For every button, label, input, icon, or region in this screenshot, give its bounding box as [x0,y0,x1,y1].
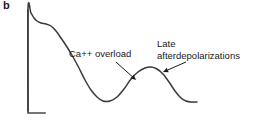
annotation-ca-overload: Ca++ overload [69,48,131,60]
arrow-late-afterdepolarizations [163,62,186,72]
figure-panel-b: b Ca++ overload Late afterdepolarization… [0,0,253,124]
annotation-late-line-2: afterdepolarizations [157,50,240,62]
annotation-late-line-1: Late [157,38,176,49]
annotation-ca-overload-text: Ca++ overload [69,48,131,59]
arrow-ca-overload [116,62,136,80]
annotation-late-afterdepolarizations: Late afterdepolarizations [157,38,240,61]
axis-scale-bar [28,10,45,113]
action-potential-plot [0,0,253,124]
